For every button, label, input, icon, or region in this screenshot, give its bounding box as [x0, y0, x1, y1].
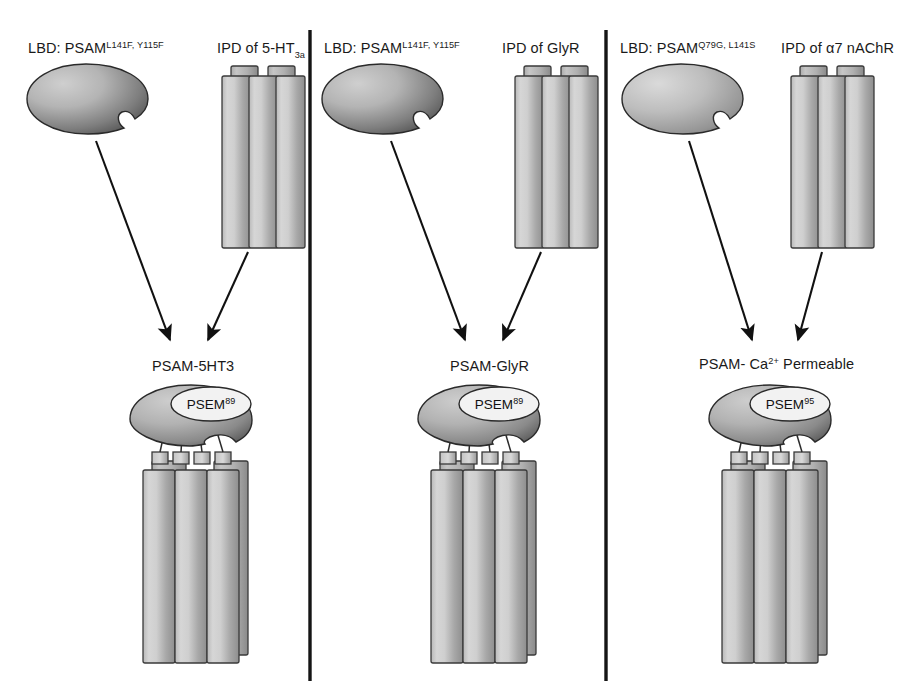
figure-canvas: LBD: PSAML141F, Y115F IPD of 5-HT3a: [0, 0, 923, 693]
ipd-label-panel-1: IPD of 5-HT3a: [217, 40, 306, 60]
assembly-cap-4: [794, 452, 810, 464]
lbd-label-superscript: L141F, Y115F: [402, 40, 460, 50]
lbd-label-prefix: LBD: PSAM: [324, 40, 402, 56]
assembly-cap-4: [503, 452, 519, 464]
lbd-label-panel-1: LBD: PSAML141F, Y115F: [28, 40, 164, 57]
assembly-cylinder-front-right: [495, 470, 527, 663]
assembly-panel-1: PSEM89: [130, 385, 252, 663]
psem-badge-panel-2: PSEM89: [459, 387, 539, 421]
psem-badge-panel-1: PSEM89: [171, 387, 251, 421]
lbd-shape-panel-3: [622, 64, 743, 134]
arrow-ipd-to-product-panel-2: [503, 252, 541, 340]
assembly-cylinder-front-center: [175, 470, 207, 663]
arrow-ipd-to-product-panel-3: [798, 252, 822, 340]
ipd-cylinder-front-right: [276, 76, 305, 248]
assembly-cap-2: [461, 452, 477, 464]
psem-badge-superscript: 89: [225, 396, 235, 406]
product-label-panel-1: PSAM-5HT3: [152, 358, 234, 374]
lbd-shape-panel-1: [27, 64, 148, 134]
ipd-label-text: IPD of 5-HT: [217, 40, 295, 56]
assembly-cap-3: [482, 452, 498, 464]
assembly-cylinder-front-left: [143, 470, 175, 663]
psem-badge-prefix: PSEM: [187, 397, 225, 412]
assembly-cap-1: [440, 452, 456, 464]
arrow-ipd-to-product-panel-1: [208, 252, 248, 340]
lbd-label-superscript: L141F, Y115F: [106, 40, 164, 50]
lbd-label-prefix: LBD: PSAM: [620, 40, 698, 56]
panel-psam-glyr: LBD: PSAML141F, Y115F IPD of GlyR PSAM-G…: [322, 40, 598, 664]
product-label-prefix: PSAM- Ca: [699, 356, 769, 372]
ipd-cylinder-front-left: [515, 76, 544, 248]
assembly-cap-3: [773, 452, 789, 464]
ipd-shape-panel-3: [791, 66, 874, 248]
lbd-label-panel-3: LBD: PSAMQ79G, L141S: [620, 40, 756, 57]
ipd-cylinder-front-left: [791, 76, 820, 248]
ipd-shape-panel-2: [515, 66, 598, 248]
assembly-panel-2: PSEM89: [418, 385, 540, 663]
psem-badge-prefix: PSEM: [475, 397, 513, 412]
ipd-cylinder-front-right: [845, 76, 874, 248]
psem-badge-prefix: PSEM: [766, 397, 804, 412]
psem-badge-superscript: 89: [513, 396, 523, 406]
lbd-label-prefix: LBD: PSAM: [28, 40, 106, 56]
ipd-label-subscript: 3a: [295, 50, 306, 60]
ipd-cylinder-front-right: [569, 76, 598, 248]
assembly-cylinder-front-center: [463, 470, 495, 663]
lbd-label-panel-2: LBD: PSAML141F, Y115F: [324, 40, 460, 57]
arrow-lbd-to-product-panel-1: [96, 141, 170, 340]
product-label-suffix: Permeable: [779, 356, 854, 372]
psem-badge-panel-3: PSEM95: [750, 387, 830, 421]
product-label-panel-3: PSAM- Ca2+ Permeable: [699, 356, 854, 373]
ipd-cylinder-front-center: [249, 76, 278, 248]
ipd-shape-panel-1: [222, 66, 305, 248]
assembly-cap-2: [752, 452, 768, 464]
assembly-cap-1: [152, 452, 168, 464]
ipd-label-panel-2: IPD of GlyR: [502, 40, 580, 56]
assembly-cap-2: [173, 452, 189, 464]
ipd-cylinder-front-center: [542, 76, 571, 248]
assembly-cylinder-front-left: [431, 470, 463, 663]
assembly-cylinder-front-center: [754, 470, 786, 663]
assembly-panel-3: PSEM95: [709, 385, 831, 663]
ipd-cylinder-front-left: [222, 76, 251, 248]
lbd-shape-panel-2: [322, 64, 443, 134]
assembly-cylinder-front-right: [207, 470, 239, 663]
product-label-superscript: 2+: [768, 356, 779, 366]
assembly-cap-1: [731, 452, 747, 464]
assembly-cap-3: [194, 452, 210, 464]
assembly-cylinder-front-right: [786, 470, 818, 663]
product-label-panel-2: PSAM-GlyR: [450, 358, 529, 374]
lbd-label-superscript: Q79G, L141S: [698, 40, 755, 50]
panel-psam-5ht3: LBD: PSAML141F, Y115F IPD of 5-HT3a: [27, 40, 306, 664]
ipd-cylinder-front-center: [818, 76, 847, 248]
arrow-lbd-to-product-panel-2: [391, 141, 465, 340]
assembly-cap-4: [215, 452, 231, 464]
assembly-cylinder-front-left: [722, 470, 754, 663]
psem-badge-superscript: 95: [804, 396, 814, 406]
panel-psam-ca-permeable: LBD: PSAMQ79G, L141S IPD of α7 nAChR PSA…: [620, 40, 894, 664]
ipd-label-panel-3: IPD of α7 nAChR: [781, 40, 894, 56]
arrow-lbd-to-product-panel-3: [689, 141, 752, 340]
